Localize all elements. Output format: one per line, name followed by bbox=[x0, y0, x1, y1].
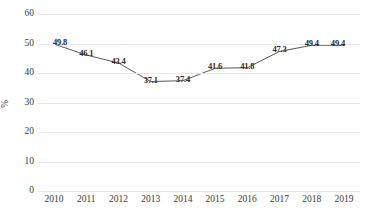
y-axis-tick-label: 20 bbox=[0, 127, 34, 137]
y-axis-tick-label: 0 bbox=[0, 186, 34, 196]
x-axis-tick-label: 2018 bbox=[302, 195, 321, 205]
data-point-label: 49.8 bbox=[53, 38, 67, 47]
x-axis-tick-label: 2012 bbox=[109, 195, 128, 205]
x-axis-tick-label: 2019 bbox=[334, 195, 353, 205]
gridline bbox=[38, 73, 360, 74]
gridline bbox=[38, 162, 360, 163]
line-chart: % 6050403020100 49.846.143.437.137.441.6… bbox=[0, 0, 365, 217]
plot-area: 49.846.143.437.137.441.641.847.349.449.4 bbox=[38, 14, 360, 191]
x-axis-tick-label: 2011 bbox=[77, 195, 96, 205]
data-point-label: 37.4 bbox=[176, 74, 190, 83]
data-point-label: 41.8 bbox=[240, 61, 254, 70]
data-point-label: 47.3 bbox=[272, 45, 286, 54]
x-axis-tick-label: 2010 bbox=[45, 195, 64, 205]
x-axis-tick-label: 2015 bbox=[206, 195, 225, 205]
gridline bbox=[38, 14, 360, 15]
data-point-label: 49.4 bbox=[331, 39, 345, 48]
gridline bbox=[38, 132, 360, 133]
y-axis-tick-label: 10 bbox=[0, 157, 34, 167]
data-point-label: 41.6 bbox=[208, 62, 222, 71]
gridline bbox=[38, 103, 360, 104]
x-axis-tick-label: 2013 bbox=[141, 195, 160, 205]
x-axis-tick-label: 2016 bbox=[238, 195, 257, 205]
x-axis-tick-label: 2017 bbox=[270, 195, 289, 205]
gridline bbox=[38, 191, 360, 192]
data-point-label: 49.4 bbox=[305, 39, 319, 48]
x-axis-tick-label: 2014 bbox=[173, 195, 192, 205]
data-point-label: 37.1 bbox=[144, 75, 158, 84]
y-axis-tick-label: 60 bbox=[0, 9, 34, 19]
y-axis-tick-label: 40 bbox=[0, 68, 34, 78]
y-axis-tick-label: 30 bbox=[0, 98, 34, 108]
data-point-label: 43.4 bbox=[111, 56, 125, 65]
y-axis-tick-label: 50 bbox=[0, 39, 34, 49]
x-axis-labels: 2010201120122013201420152016201720182019 bbox=[38, 195, 360, 211]
y-axis-labels: 6050403020100 bbox=[0, 0, 34, 217]
data-point-label: 46.1 bbox=[79, 49, 93, 58]
